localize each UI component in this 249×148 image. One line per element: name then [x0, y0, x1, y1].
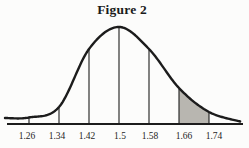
x-tick-label-1.66: 1.66: [176, 131, 193, 141]
x-tick-label-1.5: 1.5: [114, 131, 126, 141]
x-tick-label-1.34: 1.34: [49, 131, 66, 141]
bell-curve-path: [5, 27, 240, 121]
x-tick-label-1.42: 1.42: [79, 131, 96, 141]
normal-distribution-chart: 1.261.341.421.51.581.661.74: [0, 0, 249, 148]
x-tick-label-1.74: 1.74: [206, 131, 223, 141]
x-tick-label-1.26: 1.26: [19, 131, 36, 141]
figure-2-panel: Figure 2 1.261.341.421.51.581.661.74: [0, 0, 249, 148]
x-tick-label-1.58: 1.58: [142, 131, 159, 141]
